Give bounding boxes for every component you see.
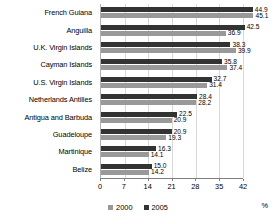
legend-swatch-icon	[144, 205, 149, 210]
bar-2000: 19.3	[101, 135, 166, 140]
bar-group: 28.428.2	[101, 91, 243, 108]
bar-group: 42.536.9	[101, 21, 243, 38]
bar-value-label: 28.2	[198, 99, 211, 106]
legend-label: 2005	[152, 203, 168, 212]
x-tick-label: 35	[215, 182, 223, 191]
legend-swatch-icon	[108, 205, 113, 210]
x-axis-unit-label: %	[261, 201, 268, 210]
bar-group: 35.837.4	[101, 56, 243, 73]
bar-value-label: 19.3	[168, 134, 181, 141]
bar-group: 20.919.3	[101, 126, 243, 143]
legend-label: 2000	[116, 203, 132, 212]
category-label: Cayman Islands	[0, 56, 96, 73]
bar-group: 44.945.1	[101, 4, 243, 21]
plot-area: 44.945.142.536.938.339.935.837.432.731.4…	[100, 4, 243, 178]
bar-2000: 20.9	[101, 118, 172, 123]
legend-item[interactable]: 2000	[108, 203, 132, 212]
bar-group: 22.520.9	[101, 108, 243, 125]
category-label: U.K. Virgin Islands	[0, 39, 96, 56]
x-tick-label: 42	[239, 182, 247, 191]
bar-2000: 31.4	[101, 83, 207, 88]
gridline	[243, 4, 244, 178]
bar-2005: 20.9	[101, 129, 172, 134]
bar-value-label: 14.2	[151, 169, 164, 176]
bar-value-label: 31.4	[209, 82, 222, 89]
bar-2005: 15.0	[101, 164, 152, 169]
bar-2000: 14.2	[101, 170, 149, 175]
category-label: French Guiana	[0, 4, 96, 21]
category-label: Anguilla	[0, 21, 96, 38]
category-label: Martinique	[0, 143, 96, 160]
bar-value-label: 14.1	[151, 152, 164, 159]
tick-mark	[172, 179, 173, 181]
x-tick-label: 28	[191, 182, 199, 191]
bar-group: 16.314.1	[101, 143, 243, 160]
bar-group: 38.339.9	[101, 39, 243, 56]
category-axis-labels: French GuianaAnguillaU.K. Virgin Islands…	[0, 4, 96, 178]
bar-group: 15.014.2	[101, 161, 243, 178]
x-tick-label: 0	[98, 182, 102, 191]
bar-value-label: 37.4	[229, 65, 242, 72]
bar-2005: 44.9	[101, 7, 253, 12]
bar-2005: 16.3	[101, 146, 156, 151]
category-label: U.S. Virgin Islands	[0, 74, 96, 91]
chart-legend: 20002005	[0, 199, 276, 215]
bar-2005: 28.4	[101, 94, 197, 99]
bar-group: 32.731.4	[101, 74, 243, 91]
tick-mark	[243, 179, 244, 181]
tick-mark	[148, 179, 149, 181]
bar-value-label: 36.9	[228, 30, 241, 37]
category-label: Antigua and Barbuda	[0, 108, 96, 125]
category-label: Guadeloupe	[0, 126, 96, 143]
bar-groups: 44.945.142.536.938.339.935.837.432.731.4…	[101, 4, 243, 178]
x-tick-label: 14	[144, 182, 152, 191]
bar-2000: 28.2	[101, 100, 196, 105]
category-label: Netherlands Antilles	[0, 91, 96, 108]
bar-2005: 38.3	[101, 42, 230, 47]
bar-2000: 37.4	[101, 65, 227, 70]
bar-2005: 22.5	[101, 112, 177, 117]
bar-value-label: 20.9	[174, 117, 187, 124]
bar-value-label: 45.1	[255, 12, 268, 19]
bar-2005: 42.5	[101, 25, 245, 30]
tick-mark	[100, 179, 101, 181]
bar-2000: 36.9	[101, 31, 226, 36]
bar-2000: 45.1	[101, 13, 253, 18]
x-axis-ticks: 071421283542	[100, 179, 243, 193]
bar-value-label: 39.9	[238, 47, 251, 54]
legend-item[interactable]: 2005	[144, 203, 168, 212]
tick-mark	[124, 179, 125, 181]
bar-2000: 14.1	[101, 152, 149, 157]
x-tick-label: 21	[167, 182, 175, 191]
tick-mark	[195, 179, 196, 181]
tick-mark	[219, 179, 220, 181]
bar-2000: 39.9	[101, 48, 236, 53]
plot-wrapper: French GuianaAnguillaU.K. Virgin Islands…	[0, 4, 276, 182]
category-label: Belize	[0, 161, 96, 178]
bar-chart: French GuianaAnguillaU.K. Virgin Islands…	[0, 0, 276, 223]
x-tick-label: 7	[122, 182, 126, 191]
bar-value-label: 42.5	[247, 24, 260, 31]
bar-2005: 32.7	[101, 77, 212, 82]
bar-2005: 35.8	[101, 59, 222, 64]
